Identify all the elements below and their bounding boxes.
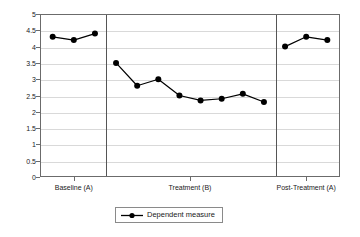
- data-point-marker: [303, 34, 309, 40]
- legend-marker-icon: [121, 211, 143, 220]
- y-axis-tick-label: 2: [6, 108, 36, 115]
- y-axis-tick-label: 4: [6, 43, 36, 50]
- data-point-marker: [176, 93, 182, 99]
- data-point-marker: [92, 31, 98, 37]
- y-axis-tick-label: 0.5: [6, 157, 36, 164]
- data-point-marker: [240, 91, 246, 97]
- x-axis-tick-label: Post-Treatment (A): [277, 184, 336, 191]
- y-axis-tick-label: 4.5: [6, 27, 36, 34]
- x-axis-tick-mark: [74, 177, 75, 181]
- data-point-marker: [282, 44, 288, 50]
- y-axis-tick-label: 1.5: [6, 125, 36, 132]
- y-axis-tick-label: 2.5: [6, 92, 36, 99]
- series-dependent-measure: [50, 31, 331, 105]
- data-point-marker: [324, 37, 330, 43]
- chart-container: 00.511.522.533.544.55 Baseline (A)Treatm…: [0, 0, 360, 237]
- x-axis-tick-mark: [190, 177, 191, 181]
- y-axis-tick-label: 5: [6, 11, 36, 18]
- data-point-marker: [134, 83, 140, 89]
- data-point-marker: [71, 37, 77, 43]
- y-axis-tick-label: 0: [6, 174, 36, 181]
- legend: Dependent measure: [115, 207, 223, 223]
- data-series-layer: [40, 14, 340, 177]
- x-axis-tick-label: Baseline (A): [55, 184, 93, 191]
- data-point-marker: [198, 97, 204, 103]
- y-axis-tick-label: 3: [6, 76, 36, 83]
- y-axis-tick-mark: [36, 177, 40, 178]
- data-point-marker: [50, 34, 56, 40]
- legend-label-dependent-measure: Dependent measure: [147, 211, 215, 219]
- x-axis-tick-label: Treatment (B): [169, 184, 212, 191]
- y-axis-tick-label: 1: [6, 141, 36, 148]
- data-point-marker: [113, 60, 119, 66]
- data-point-marker: [219, 96, 225, 102]
- y-axis-tick-label: 3.5: [6, 59, 36, 66]
- x-axis-tick-mark: [306, 177, 307, 181]
- data-point-marker: [155, 76, 161, 82]
- data-point-marker: [261, 99, 267, 105]
